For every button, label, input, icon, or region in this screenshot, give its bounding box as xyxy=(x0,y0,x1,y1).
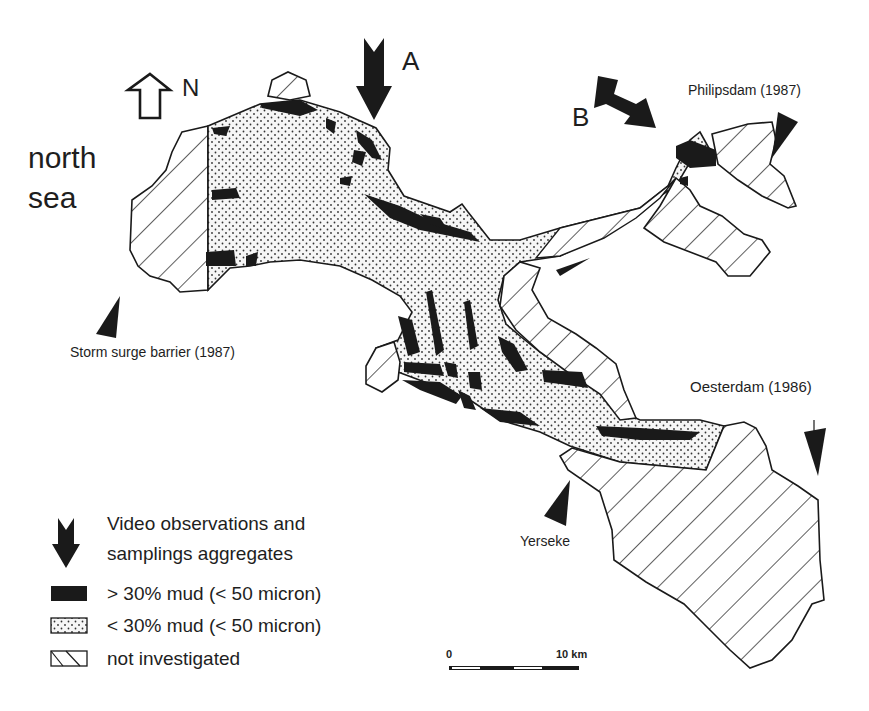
legend-item-low-mud: < 30% mud (< 50 micron) xyxy=(107,614,321,638)
yerseke-marker-icon xyxy=(544,480,570,526)
observation-arrow-a-icon xyxy=(356,38,392,120)
oesterdam-marker-icon xyxy=(804,428,826,476)
hatched-region-west-islet xyxy=(366,342,400,392)
arrow-a-label: A xyxy=(402,46,419,77)
observation-arrow-b-icon xyxy=(594,76,656,128)
hatched-region-west xyxy=(130,126,208,292)
legend-arrow-icon xyxy=(52,518,80,568)
legend-item-not-investigated: not investigated xyxy=(107,647,240,671)
north-label: N xyxy=(182,74,199,102)
philipsdam-label: Philipsdam (1987) xyxy=(688,82,801,98)
sea-label-line2: sea xyxy=(28,178,96,218)
legend-observations-line2: samplings aggregates xyxy=(107,542,305,566)
north-arrow-icon xyxy=(128,74,170,118)
legend-item-observations: Video observations and samplings aggrega… xyxy=(107,512,305,566)
storm-surge-barrier-label: Storm surge barrier (1987) xyxy=(70,344,235,360)
storm-surge-barrier-marker-icon xyxy=(96,296,120,338)
hatched-region-north-island xyxy=(268,72,310,100)
oesterdam-label: Oesterdam (1986) xyxy=(690,378,812,395)
scale-end-label: 10 km xyxy=(556,648,587,660)
arrow-b-label: B xyxy=(572,102,589,133)
legend-observations-line1: Video observations and xyxy=(107,512,305,536)
scale-bar xyxy=(449,666,579,670)
dotted-region-main xyxy=(208,100,724,470)
sea-label-line1: north xyxy=(28,138,96,178)
yerseke-label: Yerseke xyxy=(520,533,570,549)
legend-dotted-swatch xyxy=(51,618,87,633)
legend-solid-swatch xyxy=(51,586,87,601)
legend-item-high-mud: > 30% mud (< 50 micron) xyxy=(107,582,321,606)
philipsdam-marker-icon xyxy=(772,112,798,158)
sea-label: north sea xyxy=(28,138,96,218)
scale-start-label: 0 xyxy=(446,648,452,660)
legend-hatched-swatch xyxy=(51,651,87,666)
